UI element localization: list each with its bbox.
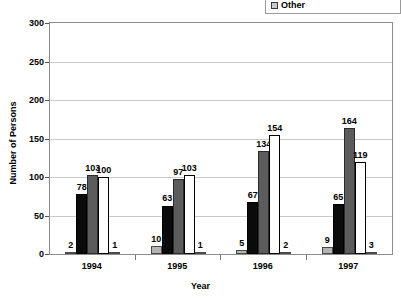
bar-value-label: 154 xyxy=(262,124,287,133)
plot-area: 2781031001106397103156713415429651641193 xyxy=(49,22,393,255)
x-axis-title: Year xyxy=(0,281,401,291)
bar xyxy=(151,246,162,254)
y-tick-label: 150 xyxy=(18,135,44,144)
y-tick-label: 250 xyxy=(18,58,44,67)
x-axis-separator xyxy=(306,255,307,260)
y-tick-label: 100 xyxy=(18,173,44,182)
y-tick-label: 200 xyxy=(18,96,44,105)
bar-value-label: 119 xyxy=(348,151,373,160)
y-axis-title: Number of Persons xyxy=(8,83,18,203)
bar-value-label: 164 xyxy=(337,117,362,126)
bar xyxy=(280,252,291,254)
bar-value-label: 1 xyxy=(102,241,127,250)
bar xyxy=(322,247,333,254)
x-axis-separator xyxy=(135,255,136,260)
x-axis-separator xyxy=(220,255,221,260)
bar xyxy=(258,151,269,254)
y-tick-label: 300 xyxy=(18,19,44,28)
x-tick-label: 1996 xyxy=(233,262,293,271)
bar xyxy=(366,252,377,254)
bar xyxy=(344,128,355,254)
bar xyxy=(173,179,184,254)
bar xyxy=(195,252,206,254)
x-tick-label: 1995 xyxy=(147,262,207,271)
bar xyxy=(162,206,173,255)
bar xyxy=(76,194,87,254)
bar xyxy=(247,202,258,254)
x-tick-label: 1997 xyxy=(318,262,378,271)
y-tick-label: 50 xyxy=(18,212,44,221)
bar-value-label: 3 xyxy=(359,241,384,250)
bar xyxy=(109,252,120,254)
bar xyxy=(65,252,76,254)
bar-value-label: 103 xyxy=(177,164,202,173)
y-tick-label: 0 xyxy=(18,250,44,259)
bar-value-label: 100 xyxy=(91,166,116,175)
bar xyxy=(236,250,247,254)
bars-layer: 2781031001106397103156713415429651641193 xyxy=(50,23,394,254)
bar-value-label: 2 xyxy=(273,241,298,250)
bar-value-label: 1 xyxy=(188,241,213,250)
bar xyxy=(333,204,344,254)
x-tick-label: 1994 xyxy=(62,262,122,271)
bar xyxy=(87,175,98,254)
bar xyxy=(269,135,280,254)
